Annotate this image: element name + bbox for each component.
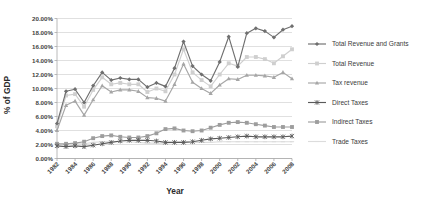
legend-label: Indirect Taxes — [332, 118, 373, 125]
data-point-marker — [263, 124, 267, 128]
data-point-marker — [218, 123, 222, 127]
y-tick-label: 20.00% — [32, 15, 53, 22]
data-point-marker — [64, 89, 68, 93]
x-axis-title: Year — [166, 186, 184, 196]
y-tick-label: 16.00% — [32, 43, 53, 50]
x-tick-label: 2004 — [244, 160, 259, 175]
data-point-marker — [109, 133, 113, 137]
data-point-marker — [227, 121, 231, 125]
data-point-marker — [191, 129, 195, 133]
x-tick-label: 2008 — [281, 160, 296, 175]
y-tick-label: 18.00% — [32, 29, 53, 36]
y-tick-label: 4.00% — [35, 127, 53, 134]
data-point-marker — [182, 129, 186, 133]
data-point-marker — [136, 82, 140, 86]
data-point-marker — [245, 31, 249, 35]
data-point-marker — [281, 70, 285, 74]
data-point-marker — [172, 82, 176, 86]
data-point-marker — [315, 120, 319, 124]
data-point-marker — [100, 75, 104, 79]
data-point-marker — [236, 120, 240, 124]
data-point-marker — [173, 73, 177, 77]
y-tick-label: 14.00% — [32, 57, 53, 64]
legend-item-3[interactable]: Direct Taxes — [308, 99, 369, 106]
data-point-marker — [73, 99, 77, 103]
data-point-marker — [118, 81, 122, 85]
data-point-marker — [145, 134, 149, 138]
y-tick-label: 8.00% — [35, 99, 53, 106]
data-point-marker — [154, 81, 158, 85]
data-point-marker — [100, 83, 104, 87]
data-point-marker — [315, 62, 319, 66]
data-point-marker — [218, 73, 222, 77]
data-point-marker — [245, 121, 249, 125]
x-tick-label: 1996 — [172, 160, 187, 175]
x-tick-label: 1988 — [100, 160, 115, 175]
data-point-marker — [154, 87, 158, 91]
data-point-marker — [272, 61, 276, 65]
data-point-marker — [281, 125, 285, 129]
series-1 — [55, 47, 294, 128]
data-point-marker — [227, 35, 231, 39]
data-point-marker — [127, 82, 131, 86]
legend-label: Total Revenue and Grants — [332, 40, 409, 47]
data-point-marker — [109, 82, 113, 86]
y-tick-label: 2.00% — [35, 141, 53, 148]
data-point-marker — [200, 129, 204, 133]
line-chart: 0.00%2.00%4.00%6.00%8.00%10.00%12.00%14.… — [0, 0, 438, 199]
data-point-marker — [100, 134, 104, 138]
x-tick-label: 1984 — [64, 160, 79, 175]
y-tick-label: 0.00% — [35, 155, 53, 162]
data-point-marker — [254, 122, 258, 126]
chart-container: 0.00%2.00%4.00%6.00%8.00%10.00%12.00%14.… — [0, 0, 438, 199]
legend-label: Direct Taxes — [332, 99, 369, 106]
y-axis-tick-labels: 0.00%2.00%4.00%6.00%8.00%10.00%12.00%14.… — [32, 15, 53, 162]
data-point-marker — [173, 126, 177, 130]
series-2 — [55, 62, 294, 132]
legend-label: Tax revenue — [332, 79, 368, 86]
data-point-marker — [154, 131, 158, 135]
data-point-marker — [209, 126, 213, 130]
legend-item-2[interactable]: Tax revenue — [308, 79, 368, 86]
y-axis-title: % of GDP — [2, 76, 12, 115]
data-point-marker — [182, 47, 186, 51]
legend-item-0[interactable]: Total Revenue and Grants — [308, 40, 409, 47]
data-point-marker — [281, 54, 285, 58]
y-tick-label: 12.00% — [32, 71, 53, 78]
legend-item-1[interactable]: Total Revenue — [308, 60, 374, 67]
data-point-marker — [191, 70, 195, 74]
y-tick-label: 10.00% — [32, 85, 53, 92]
data-point-marker — [82, 105, 86, 109]
data-point-marker — [91, 136, 95, 140]
data-point-marker — [315, 42, 319, 46]
data-point-marker — [164, 127, 168, 131]
data-point-marker — [82, 140, 86, 144]
data-point-marker — [200, 78, 204, 82]
data-point-marker — [272, 125, 276, 129]
data-point-marker — [181, 62, 185, 66]
data-point-marker — [127, 77, 131, 81]
data-point-marker — [118, 135, 122, 139]
data-point-marker — [263, 57, 267, 61]
x-tick-label: 1986 — [82, 160, 97, 175]
data-point-marker — [290, 47, 294, 51]
legend-label: Trade Taxes — [332, 138, 369, 145]
x-tick-label: 1990 — [118, 160, 133, 175]
x-tick-label: 2002 — [226, 160, 241, 175]
data-point-marker — [73, 92, 77, 96]
data-point-marker — [245, 55, 249, 59]
chart-legend: Total Revenue and GrantsTotal RevenueTax… — [308, 40, 409, 144]
x-axis-tick-labels: 1982198419861988199019921994199619982000… — [46, 160, 296, 175]
legend-item-5[interactable]: Trade Taxes — [308, 138, 369, 145]
x-tick-label: 1998 — [190, 160, 205, 175]
data-point-marker — [145, 90, 149, 94]
data-point-marker — [209, 84, 213, 88]
x-tick-label: 2000 — [208, 160, 223, 175]
legend-item-4[interactable]: Indirect Taxes — [308, 118, 373, 125]
x-tick-label: 2006 — [262, 160, 277, 175]
data-point-marker — [290, 24, 294, 28]
x-tick-label: 1994 — [154, 160, 169, 175]
data-point-marker — [290, 125, 294, 129]
data-point-marker — [254, 26, 258, 30]
x-tick-label: 1992 — [136, 160, 151, 175]
